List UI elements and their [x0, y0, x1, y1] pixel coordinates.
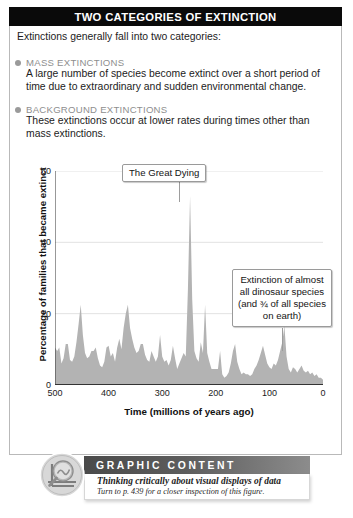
category-heading-row: MASS EXTINCTIONS	[15, 57, 331, 68]
great-dying-leader-line	[179, 179, 180, 202]
extinction-chart: Percentage of families that became extin…	[10, 163, 341, 428]
magnifying-glass-chart-icon	[39, 452, 85, 498]
y-axis-label: Percentage of families that became extin…	[37, 172, 48, 362]
figure-panel: TWO CATEGORIES OF EXTINCTION Extinctions…	[0, 0, 353, 518]
bullet-dot-icon	[15, 60, 21, 66]
category-heading: BACKGROUND EXTINCTIONS	[26, 104, 167, 115]
x-axis-label: Time (millions of years ago)	[55, 406, 323, 417]
graphic-content-line-2: Turn to p. 439 for a closer inspection o…	[97, 487, 309, 496]
x-tick-label: 0	[320, 388, 325, 398]
category-heading-row: BACKGROUND EXTINCTIONS	[15, 104, 331, 115]
category-background-extinctions: BACKGROUND EXTINCTIONS These extinctions…	[15, 104, 331, 140]
graphic-content-line-1: Thinking critically about visual display…	[97, 476, 309, 486]
category-heading: MASS EXTINCTIONS	[26, 57, 124, 68]
x-tick-label: 300	[155, 388, 170, 398]
callout-dinosaur-extinction: Extinction of almost all dinosaur specie…	[232, 269, 332, 327]
category-body: A large number of species become extinct…	[26, 68, 331, 93]
graphic-content-banner: GRAPHIC CONTENT	[84, 456, 310, 474]
intro-text: Extinctions generally fall into two cate…	[17, 31, 221, 42]
dinosaur-leader-line	[282, 328, 283, 351]
panel-title-bar: TWO CATEGORIES OF EXTINCTION	[9, 7, 342, 26]
x-tick-label: 400	[101, 388, 116, 398]
category-mass-extinctions: MASS EXTINCTIONS A large number of speci…	[15, 57, 331, 93]
x-tick-label: 100	[262, 388, 277, 398]
y-tick-label: 60	[41, 166, 51, 176]
bullet-dot-icon	[15, 107, 21, 113]
graphic-content-body: Thinking critically about visual display…	[84, 474, 310, 500]
x-tick-label: 500	[47, 388, 62, 398]
page-title: TWO CATEGORIES OF EXTINCTION	[74, 11, 276, 23]
y-tick-label: 40	[41, 237, 51, 247]
x-tick-label: 200	[208, 388, 223, 398]
y-tick-label: 20	[41, 309, 51, 319]
graphic-content-title: GRAPHIC CONTENT	[96, 460, 236, 471]
category-body: These extinctions occur at lower rates d…	[26, 115, 331, 140]
callout-the-great-dying: The Great Dying	[122, 164, 206, 182]
graphic-content-footer: GRAPHIC CONTENT Thinking critically abou…	[39, 452, 316, 508]
